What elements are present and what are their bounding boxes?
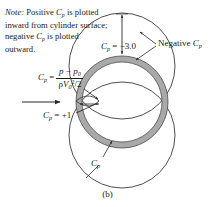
note-body-4: cylinder surface; [50,20,108,30]
cp-plus1-value: +1 [62,110,72,120]
cp-plus1-p: p [49,115,52,121]
label-cp-plus-one: Cp = +1 [43,110,71,122]
formula-denominator: ρV02/2 [56,78,83,91]
formula-fraction: p − p0 ρV02/2 [56,66,83,91]
cp-plus1-eq: = [54,110,59,120]
formula-p: p [44,77,47,83]
negative-cp-leader-upper [140,32,156,44]
formula-den-tail: /2 [74,79,81,89]
cp-bottom-p: p [97,163,100,169]
negative-cp-leader-lower [136,46,156,60]
formula-lhs: Cp = [38,72,54,84]
negative-cp-p: p [199,43,202,49]
note-body-6: is plotted [45,31,79,41]
note-body-2: is [65,7,73,17]
label-negative-cp: Negative Cp [158,38,202,50]
formula-num-p0-sub: 0 [78,71,81,77]
label-cp-minus-three: Cp = −3.0 [101,41,136,53]
formula-num-minus: − [66,66,71,76]
cp-top-value: −3.0 [120,41,136,51]
formula-numerator: p − p0 [57,66,83,78]
cylinder-annulus [76,56,168,148]
figure-container: Note: Positive Cp is plotted inward from… [0,0,215,207]
note-body-5: negative [5,31,36,41]
formula-pressure-coefficient: Cp = p − p0 ρV02/2 [38,66,83,91]
note-body-7: outward. [5,44,35,54]
note-lead: Note: [5,7,24,17]
formula-leader [84,89,98,99]
label-cp-bottom: Cp [91,158,100,170]
formula-num-p: p [59,66,64,76]
cp-top-p: p [107,46,110,52]
note-body-1: Positive [24,7,56,17]
note-text: Note: Positive Cp is plotted inward from… [5,7,109,56]
lower-negative-cp-lobe [69,82,175,188]
figure-caption: (b) [0,189,215,200]
negative-cp-word: Negative [158,38,193,48]
cp-top-eq: = [112,41,117,51]
